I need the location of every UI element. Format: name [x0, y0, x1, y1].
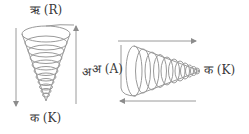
- label-top-r: ऋ (R): [30, 4, 62, 16]
- left-cone-group: [16, 25, 76, 106]
- right-cone-group: [118, 41, 200, 101]
- label-left-a: अ (A): [92, 63, 123, 75]
- label-side-a: अ: [82, 66, 91, 78]
- label-bottom-k: क (K): [30, 112, 61, 124]
- label-right-k: क (K): [204, 64, 235, 76]
- diagram: ऋ (R) क (K) अ अ (A) क (K): [0, 0, 249, 134]
